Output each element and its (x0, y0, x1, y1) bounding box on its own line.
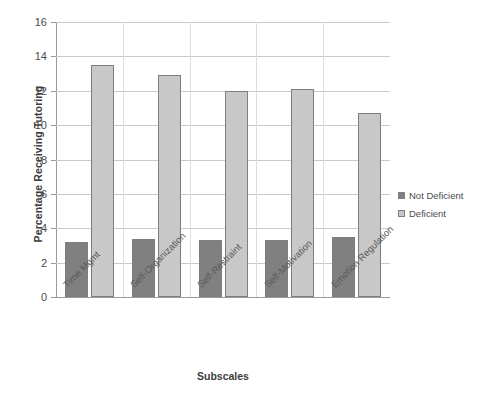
y-tick-label: 10 (35, 119, 47, 131)
legend-swatch-icon (398, 210, 405, 217)
legend-item[interactable]: Deficient (398, 208, 463, 219)
y-tick-label: 2 (41, 257, 47, 269)
legend-label: Not Deficient (409, 190, 463, 201)
bar (291, 89, 314, 297)
y-tick-label: 16 (35, 16, 47, 28)
bar (225, 91, 248, 297)
y-tick-mark (51, 160, 56, 161)
y-tick-mark (51, 22, 56, 23)
y-tick-mark (51, 125, 56, 126)
category-separator (256, 22, 257, 297)
gridline (56, 22, 390, 23)
x-axis-title: Subscales (56, 370, 390, 382)
y-tick-mark (51, 91, 56, 92)
y-tick-label: 6 (41, 188, 47, 200)
y-tick-mark (51, 297, 56, 298)
category-separator (190, 22, 191, 297)
gridline (56, 297, 390, 298)
y-tick-label: 0 (41, 291, 47, 303)
chart-legend: Not DeficientDeficient (398, 190, 463, 226)
y-tick-label: 14 (35, 50, 47, 62)
bar-chart-figure: Percentage Receiving Tutoring 1614121086… (0, 0, 494, 400)
legend-swatch-icon (398, 192, 405, 199)
bar (358, 113, 381, 297)
y-tick-label: 12 (35, 85, 47, 97)
category-separator (323, 22, 324, 297)
gridline (56, 56, 390, 57)
legend-label: Deficient (409, 208, 446, 219)
y-tick-mark (51, 56, 56, 57)
y-tick-label: 8 (41, 154, 47, 166)
y-tick-mark (51, 228, 56, 229)
y-tick-mark (51, 263, 56, 264)
y-tick-label: 4 (41, 222, 47, 234)
y-tick-mark (51, 194, 56, 195)
category-separator (123, 22, 124, 297)
legend-item[interactable]: Not Deficient (398, 190, 463, 201)
